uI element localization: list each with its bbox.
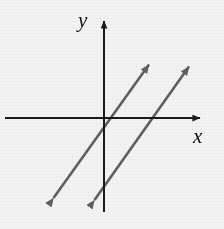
graph-line-1 bbox=[54, 65, 150, 199]
plot-canvas bbox=[0, 0, 224, 229]
coordinate-plane-figure: y x bbox=[0, 0, 224, 229]
x-axis-label: x bbox=[193, 126, 202, 147]
y-axis-label: y bbox=[78, 10, 87, 31]
graph-line-2 bbox=[95, 67, 190, 201]
